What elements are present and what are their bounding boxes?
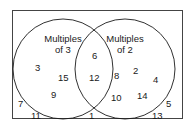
set-label-3-line2: of 3 xyxy=(55,44,71,55)
value-1: 1 xyxy=(89,110,94,121)
set-label-2-line1: Multiples xyxy=(106,33,144,44)
value-15: 15 xyxy=(58,72,69,83)
value-12: 12 xyxy=(89,72,100,83)
value-3: 3 xyxy=(35,62,40,73)
value-11: 11 xyxy=(31,110,41,121)
value-8: 8 xyxy=(114,70,119,81)
value-5: 5 xyxy=(166,98,171,109)
value-14: 14 xyxy=(137,90,148,101)
venn-diagram: Multiples of 3 Multiples of 2 3 15 9 6 1… xyxy=(0,0,189,124)
value-2: 2 xyxy=(133,65,138,76)
value-6: 6 xyxy=(92,50,97,61)
value-10: 10 xyxy=(111,92,122,103)
value-9: 9 xyxy=(51,89,56,100)
value-7: 7 xyxy=(18,98,23,109)
set-label-2-line2: of 2 xyxy=(117,44,133,55)
value-4: 4 xyxy=(153,74,158,85)
set-label-3-line1: Multiples xyxy=(44,33,82,44)
value-13: 13 xyxy=(152,110,163,121)
